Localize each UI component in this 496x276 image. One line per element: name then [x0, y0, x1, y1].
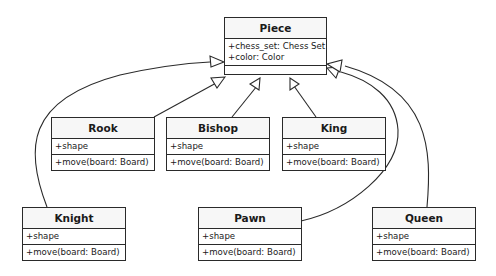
- class-rook[interactable]: Rook +shape +move(board: Board): [51, 117, 155, 171]
- attribute: +shape: [283, 139, 385, 155]
- class-name: Bishop: [167, 118, 269, 139]
- attribute: +chess_set: Chess Set: [228, 41, 323, 52]
- class-bishop[interactable]: Bishop +shape +move(board: Board): [166, 117, 270, 171]
- class-pawn[interactable]: Pawn +shape +move(board: Board): [198, 207, 302, 261]
- arrow-rook-to-piece: [154, 82, 218, 117]
- arrow-bishop-to-piece: [232, 86, 257, 117]
- method: +move(board: Board): [373, 245, 475, 260]
- class-name: Queen: [373, 208, 475, 229]
- class-name: Rook: [52, 118, 154, 139]
- arrowhead-knight: [210, 56, 224, 67]
- attribute: +shape: [199, 229, 301, 245]
- class-knight[interactable]: Knight +shape +move(board: Board): [22, 207, 126, 261]
- class-king[interactable]: King +shape +move(board: Board): [282, 117, 386, 171]
- method: +move(board: Board): [283, 155, 385, 170]
- method: +move(board: Board): [167, 155, 269, 170]
- class-name: Knight: [23, 208, 125, 229]
- attribute: +shape: [52, 139, 154, 155]
- method: +move(board: Board): [199, 245, 301, 260]
- arrowhead-rook: [211, 77, 225, 88]
- methods-section: [225, 66, 326, 74]
- arrowhead-king: [290, 78, 299, 90]
- attribute: +color: Color: [228, 52, 323, 63]
- method: +move(board: Board): [52, 155, 154, 170]
- class-piece[interactable]: Piece +chess_set: Chess Set +color: Colo…: [224, 17, 327, 75]
- class-name: King: [283, 118, 385, 139]
- class-name: Piece: [225, 18, 326, 39]
- attribute: +shape: [373, 229, 475, 245]
- method: +move(board: Board): [23, 245, 125, 260]
- arrow-king-to-piece: [294, 86, 316, 117]
- class-queen[interactable]: Queen +shape +move(board: Board): [372, 207, 476, 261]
- class-name: Pawn: [199, 208, 301, 229]
- attribute: +shape: [23, 229, 125, 245]
- attribute: +shape: [167, 139, 269, 155]
- attributes-section: +chess_set: Chess Set +color: Color: [225, 39, 326, 66]
